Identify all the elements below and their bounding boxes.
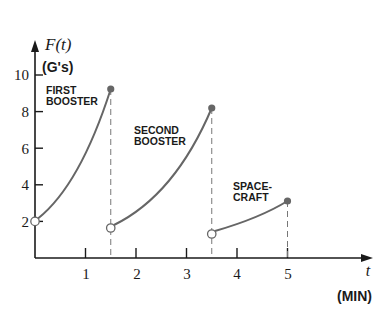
x-ticks — [86, 248, 288, 258]
ytick-10: 10 — [14, 67, 29, 83]
second-booster-end-filled — [208, 104, 215, 111]
first-booster-curve — [38, 89, 111, 219]
label-spacecraft-2: CRAFT — [233, 191, 269, 203]
x-tick-labels: 1 2 3 4 5 — [82, 266, 292, 282]
xtick-3: 3 — [183, 266, 191, 282]
x-axis-title: t — [366, 262, 371, 279]
dashed-guides — [111, 89, 288, 258]
spacecraft-curve — [215, 201, 288, 231]
ytick-6: 6 — [22, 141, 30, 157]
first-booster-start-open — [31, 217, 39, 225]
y-axis-arrow-icon — [31, 40, 39, 52]
ytick-4: 4 — [22, 177, 30, 193]
x-axis-arrow-icon — [361, 254, 373, 262]
xtick-2: 2 — [133, 266, 141, 282]
xtick-1: 1 — [82, 266, 90, 282]
acceleration-chart: 2 4 6 8 10 1 2 3 4 5 F(t) (G's) t (MIN) — [0, 0, 383, 316]
series-labels: FIRST BOOSTER SECOND BOOSTER SPACE- CRAF… — [46, 84, 272, 203]
y-ticks — [35, 75, 43, 221]
xtick-5: 5 — [284, 266, 292, 282]
first-booster-end-filled — [107, 85, 114, 92]
second-booster-start-open — [107, 224, 115, 232]
label-second-booster-2: BOOSTER — [134, 135, 186, 147]
curves — [38, 89, 288, 231]
markers — [31, 85, 291, 238]
y-axis-title: F(t) — [44, 35, 72, 54]
label-first-booster-2: BOOSTER — [46, 95, 98, 107]
x-axis-unit: (MIN) — [337, 288, 372, 304]
y-axis-unit: (G's) — [42, 59, 73, 75]
y-tick-labels: 2 4 6 8 10 — [14, 67, 30, 230]
ytick-8: 8 — [22, 104, 30, 120]
spacecraft-end-filled — [284, 197, 291, 204]
ytick-2: 2 — [22, 214, 30, 230]
spacecraft-start-open — [208, 230, 216, 238]
xtick-4: 4 — [233, 266, 241, 282]
